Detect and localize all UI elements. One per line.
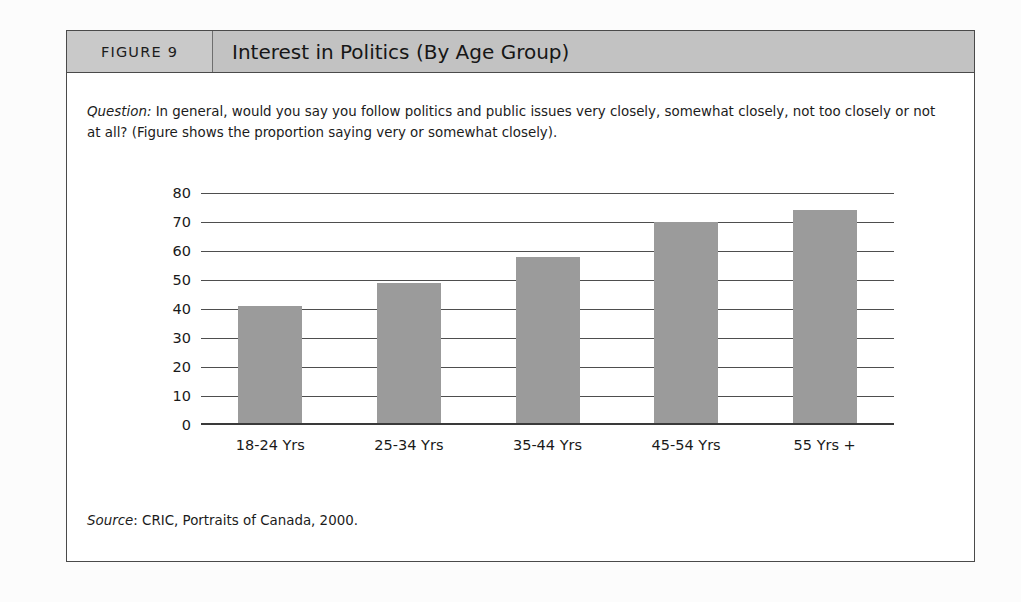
source-block: Source: CRIC, Portraits of Canada, 2000.: [87, 513, 358, 528]
plot-area: [201, 193, 894, 425]
x-axis-line: [201, 423, 894, 425]
bar-18-24-yrs: [238, 306, 302, 425]
source-label: Source: [87, 513, 133, 528]
question-label: Question:: [87, 104, 151, 119]
question-text: In general, would you say you follow pol…: [87, 104, 935, 140]
y-tick-label-70: 70: [131, 214, 191, 230]
figure-body: Question: In general, would you say you …: [67, 73, 974, 561]
figure-frame: FIGURE 9 Interest in Politics (By Age Gr…: [66, 30, 975, 562]
y-tick-label-30: 30: [131, 330, 191, 346]
y-tick-label-80: 80: [131, 185, 191, 201]
y-tick-label-0: 0: [131, 417, 191, 433]
x-tick-label-2: 35-44 Yrs: [483, 437, 613, 453]
figure-title-cell: Interest in Politics (By Age Group): [213, 31, 974, 72]
bar-35-44-yrs: [516, 257, 580, 425]
x-tick-label-3: 45-54 Yrs: [621, 437, 751, 453]
question-block: Question: In general, would you say you …: [87, 101, 949, 143]
bar-chart: 01020304050607080 18-24 Yrs25-34 Yrs35-4…: [139, 193, 894, 443]
figure-number-cell: FIGURE 9: [67, 31, 213, 72]
y-tick-label-10: 10: [131, 388, 191, 404]
bar-25-34-yrs: [377, 283, 441, 425]
bars-layer: [201, 193, 894, 425]
y-tick-label-40: 40: [131, 301, 191, 317]
bar-55-yrs-+: [793, 210, 857, 425]
figure-title: Interest in Politics (By Age Group): [232, 40, 569, 64]
figure-header: FIGURE 9 Interest in Politics (By Age Gr…: [67, 31, 974, 73]
figure-number-label: FIGURE 9: [101, 44, 178, 60]
x-tick-label-0: 18-24 Yrs: [205, 437, 335, 453]
y-tick-label-20: 20: [131, 359, 191, 375]
y-tick-label-60: 60: [131, 243, 191, 259]
x-tick-label-1: 25-34 Yrs: [344, 437, 474, 453]
x-tick-label-4: 55 Yrs +: [760, 437, 890, 453]
y-tick-label-50: 50: [131, 272, 191, 288]
source-text: : CRIC, Portraits of Canada, 2000.: [133, 513, 358, 528]
bar-45-54-yrs: [654, 222, 718, 425]
